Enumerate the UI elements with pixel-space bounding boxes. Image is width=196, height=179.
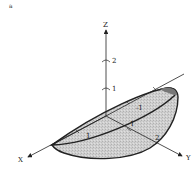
surface-label-center1: 1	[130, 120, 134, 128]
y-axis-label: Y	[185, 154, 191, 162]
panel-label: a	[9, 2, 13, 9]
half-ellipsoid-diagram: a X Y Z 2 1 1 -1 1 2	[0, 0, 196, 179]
surface-label-neg1: -1	[136, 104, 143, 112]
z-tick-label-1: 1	[112, 85, 116, 93]
surface-label-x1: 1	[86, 132, 90, 140]
x-axis-label: X	[18, 156, 23, 164]
surface-label-y2: 2	[155, 134, 159, 142]
z-axis-label: Z	[103, 21, 108, 29]
z-tick-label-2: 2	[112, 57, 116, 65]
